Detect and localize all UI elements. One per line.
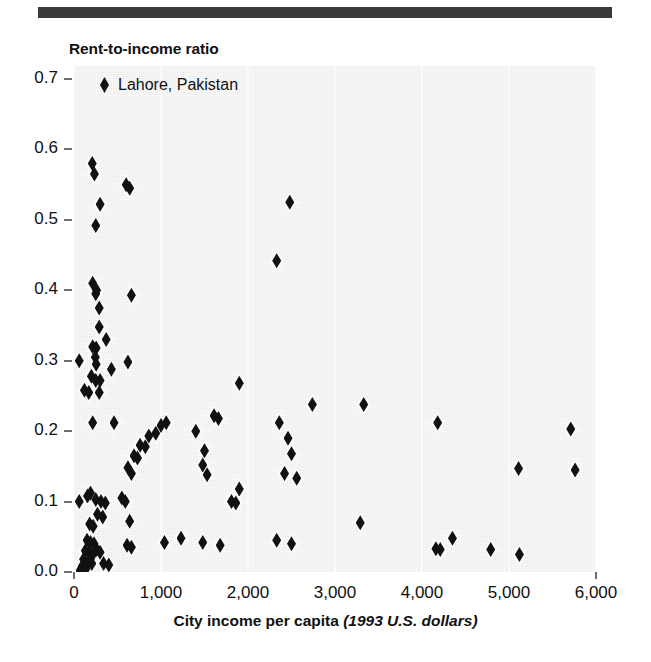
y-tick-label-0.3: 0.3 xyxy=(0,350,58,370)
legend-label: Lahore, Pakistan xyxy=(118,76,238,94)
y-tick-label-0.4: 0.4 xyxy=(0,279,58,299)
y-tick-mark-0.5 xyxy=(64,219,72,221)
plot-area xyxy=(74,66,596,572)
y-axis-title: Rent-to-income ratio xyxy=(69,40,219,58)
legend: Lahore, Pakistan xyxy=(100,76,238,94)
x-tick-label-1000: 1,000 xyxy=(140,583,183,603)
y-tick-label-0.7: 0.7 xyxy=(0,68,58,88)
y-tick-label-0.5: 0.5 xyxy=(0,209,58,229)
top-rule-decoration xyxy=(38,7,612,18)
y-tick-mark-0.6 xyxy=(64,148,72,150)
gridline-x-1000 xyxy=(160,66,162,572)
y-tick-label-0.6: 0.6 xyxy=(0,138,58,158)
x-axis-title-main: City income per capita xyxy=(173,612,338,629)
x-axis-title-units: (1993 U.S. dollars) xyxy=(343,612,477,629)
y-tick-label-0.0: 0.0 xyxy=(0,561,58,581)
y-tick-mark-0.4 xyxy=(64,289,72,291)
x-tick-label-6000: 6,000 xyxy=(575,583,618,603)
chart-figure: Rent-to-income ratio Lahore, Pakistan 0.… xyxy=(0,0,651,662)
x-tick-mark-0 xyxy=(73,572,75,579)
y-tick-mark-0.0 xyxy=(64,571,72,573)
gridline-x-3000 xyxy=(334,66,336,572)
y-tick-mark-0.2 xyxy=(64,430,72,432)
x-tick-label-3000: 3,000 xyxy=(314,583,357,603)
x-axis-title: City income per capita (1993 U.S. dollar… xyxy=(0,612,651,630)
y-tick-mark-0.1 xyxy=(64,501,72,503)
y-tick-mark-0.7 xyxy=(64,78,72,80)
y-tick-mark-0.3 xyxy=(64,360,72,362)
x-tick-label-2000: 2,000 xyxy=(227,583,270,603)
y-tick-label-0.1: 0.1 xyxy=(0,491,58,511)
x-tick-label-4000: 4,000 xyxy=(401,583,444,603)
x-tick-label-5000: 5,000 xyxy=(488,583,531,603)
gridline-x-6000 xyxy=(595,66,596,572)
gridline-x-5000 xyxy=(508,66,510,572)
x-tick-mark-6000 xyxy=(595,572,597,579)
legend-diamond-icon xyxy=(100,77,109,93)
gridline-x-4000 xyxy=(421,66,423,572)
gridline-x-2000 xyxy=(247,66,249,572)
x-tick-label-0: 0 xyxy=(69,583,78,603)
y-tick-label-0.2: 0.2 xyxy=(0,420,58,440)
